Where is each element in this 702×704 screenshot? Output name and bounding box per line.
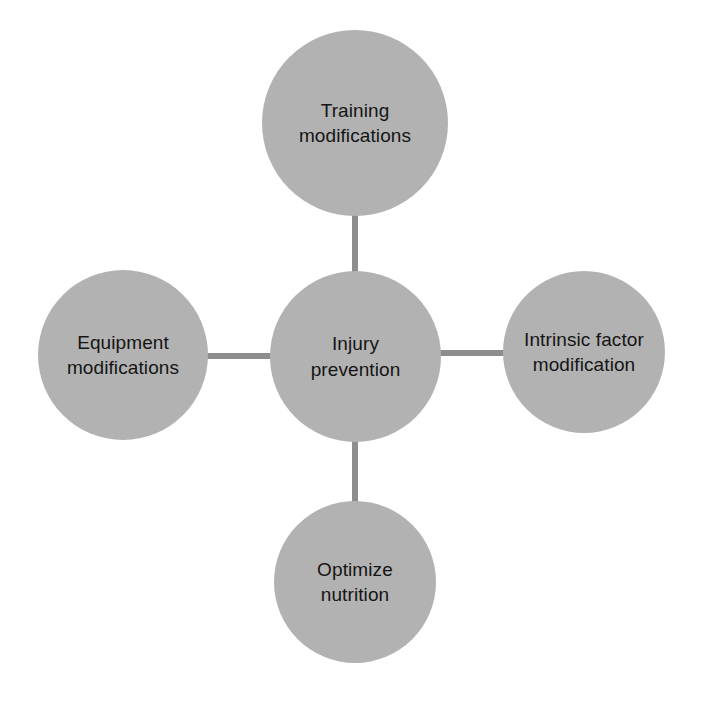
node-label-training-modifications: Training modifications — [265, 98, 445, 148]
node-optimize-nutrition[interactable]: Optimize nutrition — [274, 501, 436, 663]
connector-center-to-left — [205, 353, 273, 359]
node-label-optimize-nutrition: Optimize nutrition — [274, 557, 436, 607]
node-equipment-modifications[interactable]: Equipment modifications — [38, 270, 208, 440]
node-label-injury-prevention: Injury prevention — [270, 331, 441, 381]
node-training-modifications[interactable]: Training modifications — [262, 30, 448, 216]
node-intrinsic-factor-modification[interactable]: Intrinsic factor modification — [503, 271, 665, 433]
diagram-canvas: Training modifications Equipment modific… — [0, 0, 702, 704]
node-injury-prevention[interactable]: Injury prevention — [270, 271, 441, 442]
connector-center-to-bottom — [352, 441, 358, 502]
connector-center-to-top — [352, 213, 358, 272]
node-label-intrinsic-factor-modification: Intrinsic factor modification — [503, 327, 665, 377]
connector-center-to-right — [438, 350, 506, 356]
node-label-equipment-modifications: Equipment modifications — [38, 330, 208, 380]
